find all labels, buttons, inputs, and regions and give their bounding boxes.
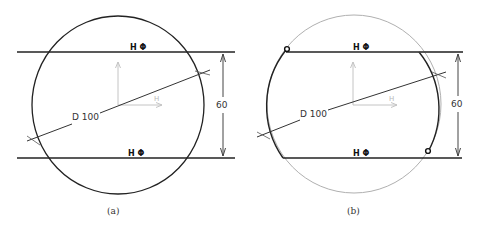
figure-caption: (b) [347, 206, 360, 216]
diameter-label[interactable]: D 100 [72, 112, 99, 122]
axis-h-label: H [154, 95, 159, 103]
dimension-label[interactable]: 60 [216, 100, 228, 110]
horizontal-constraint-bottom[interactable]: H Φ [353, 149, 369, 158]
horizontal-constraint-top[interactable]: H Φ [353, 43, 369, 52]
figure-caption: (a) [107, 206, 119, 216]
horizontal-constraint-bottom[interactable]: H Φ [128, 149, 144, 158]
axis-h-label: H [389, 95, 394, 103]
diameter-tick-right [195, 71, 210, 75]
diameter-label[interactable]: D 100 [300, 109, 327, 119]
diameter-line-left [27, 124, 72, 141]
diameter-line-right [100, 70, 210, 113]
diameter-line-right [328, 72, 446, 110]
right-arc[interactable] [419, 52, 439, 152]
dimension-label[interactable]: 60 [451, 99, 463, 109]
endpoint-marker-icon[interactable] [426, 149, 431, 154]
figure-b: H D 100 60 H Φ H Φ (b) [257, 15, 463, 216]
construction-circle [267, 15, 441, 193]
figure-a: H D 100 60 H Φ H Φ (a) [17, 16, 235, 216]
sketch-diagram: H D 100 60 H Φ H Φ (a) [0, 0, 481, 233]
diameter-line-left [257, 120, 300, 137]
endpoint-marker-icon[interactable] [285, 47, 290, 52]
left-arc[interactable] [267, 50, 286, 158]
horizontal-constraint-top[interactable]: H Φ [130, 43, 146, 52]
